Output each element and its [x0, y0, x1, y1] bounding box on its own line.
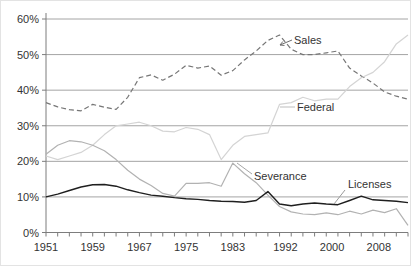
chart-canvas: 0%10%20%30%40%50%60%19511959196719751983… — [0, 0, 411, 266]
series-line-federal — [46, 35, 408, 160]
series-label-federal: Federal — [297, 101, 334, 113]
series-line-sales — [46, 35, 408, 111]
series-label-licenses: Licenses — [348, 178, 392, 190]
y-tick-label: 20% — [17, 155, 39, 167]
x-tick-label: 1975 — [174, 241, 198, 253]
y-tick-label: 40% — [17, 84, 39, 96]
y-tick-label: 60% — [17, 13, 39, 25]
x-tick-label: 1951 — [34, 241, 58, 253]
x-tick-label: 2000 — [320, 241, 344, 253]
x-tick-label: 1959 — [80, 241, 104, 253]
y-tick-label: 0% — [23, 227, 39, 239]
x-tick-label: 1967 — [127, 241, 151, 253]
tax-revenue-share-line-chart: 0%10%20%30%40%50%60%19511959196719751983… — [1, 1, 411, 266]
y-tick-label: 50% — [17, 49, 39, 61]
x-tick-label: 1992 — [273, 241, 297, 253]
series-label-severance: Severance — [254, 170, 307, 182]
y-tick-label: 30% — [17, 120, 39, 132]
x-tick-label: 2008 — [367, 241, 391, 253]
y-tick-label: 10% — [17, 191, 39, 203]
x-tick-label: 1983 — [221, 241, 245, 253]
series-label-sales: Sales — [294, 34, 322, 46]
